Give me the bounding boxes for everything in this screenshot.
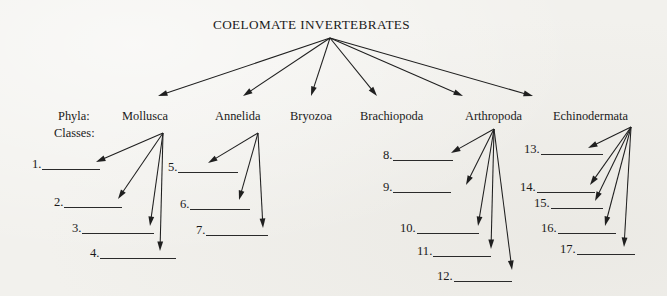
blank-rule[interactable] [206,235,268,236]
blank-rule[interactable] [551,208,603,209]
blank-rule[interactable] [454,281,512,282]
class-arrow-echinodermata-5 [622,127,631,247]
answer-blank-10[interactable]: 10. [400,222,479,235]
blank-rule[interactable] [100,258,176,259]
phylum-label-echinodermata: Echinodermata [553,110,628,122]
answer-blank-15[interactable]: 15. [534,197,603,210]
trunk-arrow-2 [243,38,330,96]
blank-number: 2. [54,196,63,209]
answer-blank-2[interactable]: 2. [54,196,122,209]
phylum-label-bryozoa: Bryozoa [290,110,332,122]
answer-blank-9[interactable]: 9. [383,181,451,194]
blank-number: 14. [520,181,536,194]
blank-rule[interactable] [178,172,238,173]
answer-blank-16[interactable]: 16. [541,222,616,235]
blank-number: 11. [417,245,432,258]
blank-number: 4. [90,247,99,260]
trunk-arrow-5 [330,38,463,96]
answer-blank-1[interactable]: 1. [32,158,100,171]
class-arrow-mollusca-3 [148,133,163,226]
blank-number: 10. [400,222,416,235]
blank-number: 15. [534,197,550,210]
blank-rule[interactable] [577,254,635,255]
answer-blank-3[interactable]: 3. [72,222,154,235]
row-label-phyla: Phyla: [58,110,90,122]
phylum-label-mollusca: Mollusca [122,110,168,122]
blank-rule[interactable] [393,192,451,193]
class-arrow-echinodermata-4 [605,127,631,226]
trunk-arrow-6 [330,38,533,96]
blank-number: 7. [196,224,205,237]
class-arrow-mollusca-1 [96,133,163,162]
blank-rule[interactable] [190,209,250,210]
row-label-classes: Classes: [54,127,95,139]
answer-blank-14[interactable]: 14. [520,181,595,194]
class-arrow-arthropoda-5 [494,129,514,270]
class-arrow-mollusca-4 [157,133,163,251]
answer-blank-12[interactable]: 12. [437,270,512,283]
blank-number: 17. [560,243,576,256]
blank-number: 8. [383,149,392,162]
class-arrow-annelida-3 [258,133,265,228]
page-title: COELOMATE INVERTEBRATES [213,18,410,31]
blank-number: 1. [32,158,41,171]
trunk-arrow-1 [158,38,330,96]
blank-rule[interactable] [417,233,479,234]
blank-number: 9. [383,181,392,194]
class-arrow-arthropoda-3 [477,129,494,226]
blank-rule[interactable] [433,256,491,257]
answer-blank-4[interactable]: 4. [90,247,176,260]
blank-number: 6. [180,198,189,211]
blank-number: 16. [541,222,557,235]
class-arrow-annelida-2 [239,133,258,200]
answer-blank-6[interactable]: 6. [180,198,250,211]
class-arrow-echinodermata-2 [590,127,631,185]
blank-number: 12. [437,270,453,283]
answer-blank-17[interactable]: 17. [560,243,635,256]
answer-blank-11[interactable]: 11. [417,245,491,258]
blank-rule[interactable] [82,233,154,234]
class-arrow-arthropoda-4 [488,129,494,249]
blank-rule[interactable] [42,169,100,170]
answer-blank-7[interactable]: 7. [196,224,268,237]
answer-blank-5[interactable]: 5. [168,161,238,174]
trunk-arrow-4 [330,38,377,96]
phylum-label-brachiopoda: Brachiopoda [360,110,423,122]
class-arrow-mollusca-2 [118,133,163,199]
worksheet-page: COELOMATE INVERTEBRATES Phyla: Classes: … [0,0,667,296]
blank-rule[interactable] [558,233,616,234]
blank-rule[interactable] [541,154,603,155]
blank-rule[interactable] [537,192,595,193]
blank-number: 5. [168,161,177,174]
trunk-arrow-3 [311,38,330,96]
class-arrow-annelida-1 [208,133,258,163]
class-arrow-arthropoda-1 [451,129,494,153]
answer-blank-8[interactable]: 8. [383,149,453,162]
blank-rule[interactable] [393,160,453,161]
phylum-label-arthropoda: Arthropoda [465,110,522,122]
phylum-label-annelida: Annelida [215,110,260,122]
blank-number: 3. [72,222,81,235]
class-arrow-echinodermata-3 [595,127,631,201]
class-arrow-arthropoda-2 [466,129,494,185]
blank-number: 13. [524,143,540,156]
blank-rule[interactable] [64,207,122,208]
answer-blank-13[interactable]: 13. [524,143,603,156]
